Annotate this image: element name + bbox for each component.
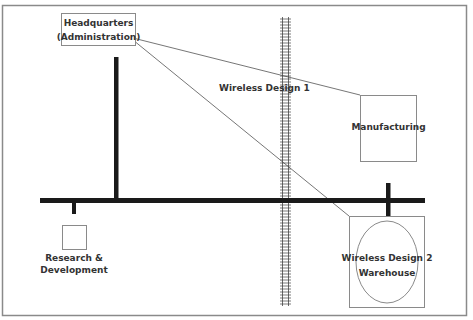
warehouse-label-line1: Wireless Design 2 <box>342 253 433 263</box>
wireless-link-warehouse <box>133 40 349 216</box>
site-diagram: Headquarters (Administration) Wireless D… <box>0 0 473 320</box>
headquarters-label-line1: Headquarters <box>64 18 134 28</box>
rd-road-stub <box>72 200 76 214</box>
research-development-node[interactable]: Research & Development <box>40 226 108 276</box>
warehouse-road-stub <box>386 183 391 216</box>
manufacturing-node[interactable]: Manufacturing <box>351 96 425 162</box>
research-box <box>63 226 87 250</box>
headquarters-label-line2: (Administration) <box>57 32 141 42</box>
warehouse-node[interactable]: Wireless Design 2 Warehouse <box>342 217 433 308</box>
main-road <box>40 198 425 203</box>
warehouse-label-line2: Warehouse <box>359 268 416 278</box>
headquarters-node[interactable]: Headquarters (Administration) <box>57 14 141 46</box>
research-label-line2: Development <box>40 265 108 275</box>
research-label-line1: Research & <box>45 253 103 263</box>
hq-road <box>114 57 119 201</box>
wireless-design-1-label: Wireless Design 1 <box>219 83 310 93</box>
manufacturing-label: Manufacturing <box>351 122 425 132</box>
